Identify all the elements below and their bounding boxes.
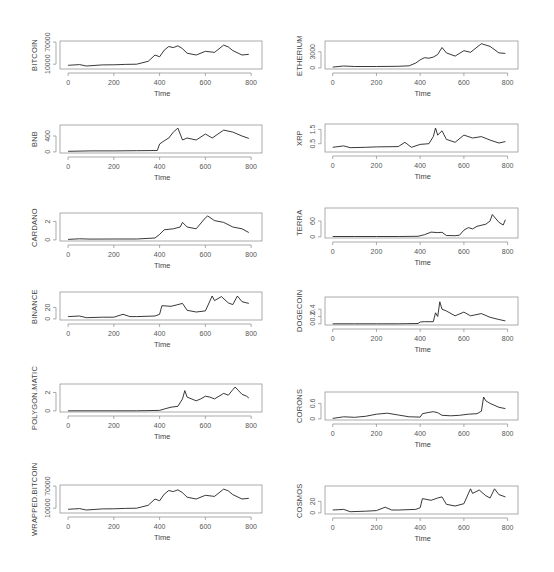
x-tick-label: 200 [371, 524, 383, 531]
x-tick-label: 800 [502, 524, 514, 531]
y-tick-label: 20 [309, 497, 316, 505]
chart-panel-cosmos: 0200400600800020COSMOSTime [0, 0, 554, 572]
y-axis-label: COSMOS [295, 483, 304, 518]
x-axis-label: Time [415, 534, 431, 543]
line-plot: 0200400600800020 [0, 0, 554, 572]
x-tick-label: 0 [331, 524, 335, 531]
y-tick-label: 0 [309, 511, 316, 515]
series-line [333, 489, 506, 512]
x-tick-label: 600 [458, 524, 470, 531]
plot-frame [325, 486, 518, 514]
x-tick-label: 400 [414, 524, 426, 531]
